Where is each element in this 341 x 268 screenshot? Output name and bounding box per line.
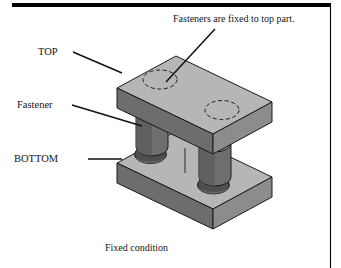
figure-canvas: Fasteners are fixed to top part. TOP Fas… xyxy=(0,0,341,268)
note-text: Fasteners are fixed to top part. xyxy=(173,13,295,24)
label-fastener: Fastener xyxy=(17,99,53,110)
leader-line-top xyxy=(73,52,122,73)
bottom-caption: Fixed condition xyxy=(105,242,168,253)
top-rule xyxy=(12,3,330,7)
label-bottom: BOTTOM xyxy=(14,153,59,164)
label-top: TOP xyxy=(38,46,58,57)
